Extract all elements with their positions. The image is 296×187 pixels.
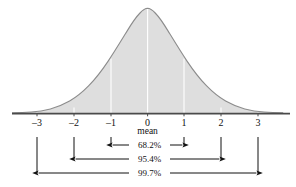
interval-label-997: 99.7% (129, 168, 170, 178)
mean-axis-label: mean (118, 126, 178, 137)
axis-label-3: 3 (246, 117, 270, 128)
normal-distribution-figure: –3 –2 –1 0 1 2 3 mean 68.2% 95.4% 99.7% (0, 0, 296, 187)
interval-label-68: 68.2% (129, 140, 170, 150)
gridlines-group (37, 9, 258, 113)
axis-label--3: –3 (25, 117, 49, 128)
interval-label-95: 95.4% (129, 154, 170, 164)
axis-label-2: 2 (209, 117, 233, 128)
axis-label--2: –2 (62, 117, 86, 128)
